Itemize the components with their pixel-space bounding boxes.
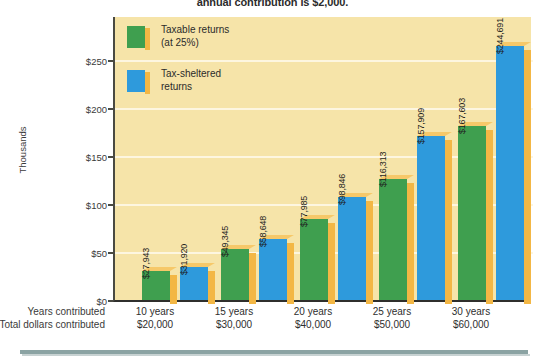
chart-legend: Taxable returns (at 25%) Tax-sheltered r… [127, 24, 302, 103]
y-tick-150: $150 [86, 152, 107, 163]
y-tick-250: $250 [86, 56, 107, 67]
gridline-200 [115, 108, 533, 110]
bar-shadow [407, 183, 414, 304]
bar-shadow [170, 275, 177, 304]
legend-label-taxable-line1: Taxable returns [161, 24, 229, 37]
x-sublabel-30-years: $60,000 [429, 319, 513, 330]
x-sublabel-20-years: $40,000 [271, 319, 355, 330]
bar-label-taxable-25-years: $116,313 [378, 152, 388, 187]
bar-face [458, 126, 486, 300]
bar-face [259, 239, 287, 300]
bar-label-taxable-15-years: $49,345 [220, 226, 230, 257]
bar-label-sheltered-30-years: $244,691 [495, 18, 505, 54]
x-sublabel-10-years: $20,000 [113, 319, 197, 330]
bar-taxable-30-years[interactable] [458, 126, 486, 300]
legend-swatch-sheltered-icon [127, 70, 149, 92]
bar-face [300, 219, 328, 300]
legend-label-sheltered: Tax-sheltered returns [161, 68, 221, 93]
y-axis: Thousands $250 $200 $150 $100 $50 $0 [0, 0, 113, 320]
bar-taxable-20-years[interactable] [300, 219, 328, 300]
x-label-20-years: 20 years [271, 306, 355, 317]
swatch-shadow [145, 28, 150, 50]
bottom-rule-shadow [22, 354, 530, 356]
bar-label-sheltered-25-years: $157,909 [416, 108, 426, 144]
y-axis-title: Thousands [17, 126, 28, 173]
legend-item-taxable[interactable]: Taxable returns (at 25%) [127, 24, 302, 59]
bar-face [379, 179, 407, 300]
legend-label-sheltered-line2: returns [161, 81, 221, 94]
x-sublabel-25-years: $50,000 [350, 319, 434, 330]
bar-shadow [328, 223, 335, 304]
bottom-rule [20, 350, 528, 354]
y-tick-200: $200 [86, 104, 107, 115]
legend-label-taxable-line2: (at 25%) [161, 37, 229, 50]
x-label-30-years: 30 years [429, 306, 513, 317]
y-tick-0: $0 [96, 296, 107, 307]
bar-label-taxable-10-years: $27,943 [141, 248, 151, 279]
bar-face [496, 46, 524, 300]
row-label-dollars-contributed: Total dollars contributed [0, 319, 105, 330]
bar-shadow [208, 271, 215, 304]
bar-label-taxable-20-years: $77,985 [299, 196, 309, 227]
bar-shadow [287, 243, 294, 304]
legend-label-taxable: Taxable returns (at 25%) [161, 24, 229, 49]
bar-sheltered-30-years[interactable] [496, 46, 524, 300]
bar-shadow [486, 130, 493, 304]
x-label-25-years: 25 years [350, 306, 434, 317]
swatch-face [127, 26, 145, 48]
bar-shadow [445, 140, 452, 304]
x-label-15-years: 15 years [192, 306, 276, 317]
y-tick-100: $100 [86, 200, 107, 211]
y-tick-50: $50 [91, 248, 107, 259]
bar-sheltered-15-years[interactable] [259, 239, 287, 300]
bar-sheltered-20-years[interactable] [338, 197, 366, 300]
swatch-face [127, 70, 145, 92]
chart-page: annual contribution is $2,000. Thousands… [0, 0, 545, 363]
legend-swatch-taxable-icon [127, 26, 149, 48]
bar-label-sheltered-15-years: $58,648 [258, 216, 268, 247]
bar-taxable-25-years[interactable] [379, 179, 407, 300]
bar-shadow [249, 253, 256, 304]
bar-face [338, 197, 366, 300]
bar-shadow [366, 201, 373, 304]
x-sublabel-15-years: $30,000 [192, 319, 276, 330]
swatch-shadow [145, 72, 150, 94]
bar-label-sheltered-20-years: $98,846 [337, 174, 347, 205]
bar-label-taxable-30-years: $167,603 [457, 98, 467, 134]
legend-item-sheltered[interactable]: Tax-sheltered returns [127, 68, 302, 103]
bar-shadow [524, 50, 531, 304]
bar-face [417, 136, 445, 300]
bar-label-sheltered-10-years: $31,920 [179, 244, 189, 275]
bar-sheltered-25-years[interactable] [417, 136, 445, 300]
legend-label-sheltered-line1: Tax-sheltered [161, 68, 221, 81]
row-label-years-contributed: Years contributed [28, 306, 105, 317]
x-label-10-years: 10 years [113, 306, 197, 317]
